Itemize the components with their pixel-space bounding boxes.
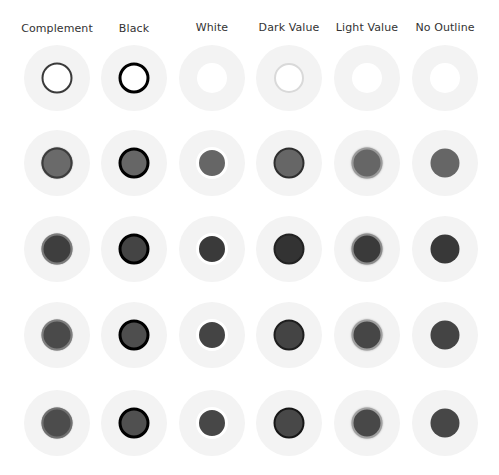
swatch-dot [274, 63, 304, 93]
swatch-dot [196, 407, 228, 439]
swatch-charcoal-fill-black [101, 302, 167, 368]
swatch-slate-fill-dark [256, 390, 322, 456]
swatch-white-fill-none [412, 45, 478, 111]
swatch-dot [196, 319, 228, 351]
swatch-dot [42, 234, 73, 265]
swatch-slate-fill-complement [24, 390, 90, 456]
swatch-dot [431, 321, 460, 350]
swatch-charcoal-fill-complement [24, 302, 90, 368]
swatch-dot [197, 63, 227, 93]
swatch-dot [352, 148, 383, 179]
swatch-dot [119, 234, 150, 265]
swatch-dot [430, 63, 460, 93]
swatch-dark-gray-fill-black [101, 216, 167, 282]
swatch-white-fill-dark [256, 45, 322, 111]
swatch-dot [119, 320, 150, 351]
swatch-slate-fill-white [179, 390, 245, 456]
swatch-dot [431, 235, 460, 264]
swatch-mid-gray-fill-complement [24, 130, 90, 196]
column-label-white: White [172, 21, 252, 34]
swatch-white-fill-complement [24, 45, 90, 111]
column-label-dark-value: Dark Value [249, 21, 329, 34]
swatch-charcoal-fill-dark [256, 302, 322, 368]
swatch-dot [196, 233, 228, 265]
swatch-dot [119, 63, 150, 94]
swatch-dot [196, 147, 228, 179]
swatch-dark-gray-fill-light [334, 216, 400, 282]
swatch-dark-gray-fill-white [179, 216, 245, 282]
swatch-slate-fill-black [101, 390, 167, 456]
swatch-mid-gray-fill-light [334, 130, 400, 196]
swatch-dot [42, 408, 73, 439]
swatch-dot [352, 234, 383, 265]
swatch-dot [274, 320, 305, 351]
swatch-mid-gray-fill-black [101, 130, 167, 196]
swatch-dot [42, 148, 73, 179]
swatch-mid-gray-fill-dark [256, 130, 322, 196]
swatch-dot [274, 148, 305, 179]
swatch-dark-gray-fill-none [412, 216, 478, 282]
swatch-dot [352, 63, 382, 93]
swatch-charcoal-fill-light [334, 302, 400, 368]
swatch-dot [42, 320, 73, 351]
swatch-dot [42, 63, 73, 94]
swatch-charcoal-fill-white [179, 302, 245, 368]
swatch-slate-fill-none [412, 390, 478, 456]
column-label-complement: Complement [17, 22, 97, 35]
swatch-dot [274, 234, 305, 265]
swatch-dot [352, 320, 383, 351]
swatch-dot [431, 149, 460, 178]
column-label-no-outline: No Outline [405, 21, 485, 34]
swatch-white-fill-white [179, 45, 245, 111]
swatch-white-fill-black [101, 45, 167, 111]
swatch-slate-fill-light [334, 390, 400, 456]
column-label-black: Black [94, 22, 174, 35]
swatch-mid-gray-fill-white [179, 130, 245, 196]
swatch-dot [119, 408, 150, 439]
swatch-dot [352, 408, 383, 439]
swatch-dot [274, 408, 305, 439]
swatch-dark-gray-fill-complement [24, 216, 90, 282]
swatch-dot [119, 148, 150, 179]
swatch-charcoal-fill-none [412, 302, 478, 368]
swatch-mid-gray-fill-none [412, 130, 478, 196]
column-label-light-value: Light Value [327, 21, 407, 34]
swatch-dark-gray-fill-dark [256, 216, 322, 282]
swatch-white-fill-light [334, 45, 400, 111]
swatch-dot [431, 409, 460, 438]
